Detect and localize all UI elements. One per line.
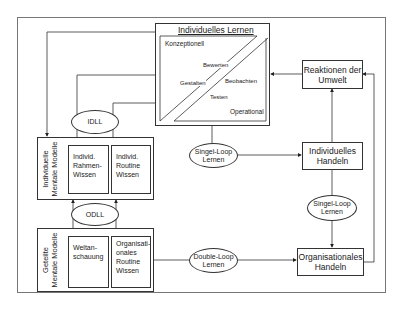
cycle-step-evaluate: Bewerten (203, 62, 228, 68)
single-loop-learning-right-ellipse: Singel-Loop Lernen (307, 195, 357, 221)
organizational-routine-knowledge: Organisati- onales Routine Wissen (111, 236, 151, 288)
cycle-step-design: Gestalten (180, 80, 206, 86)
conceptual-label: Konzeptionell (165, 40, 204, 47)
organizational-action-box: Organisationales Handeln (297, 248, 364, 276)
double-loop-learning-ellipse: Double-Loop Lernen (189, 248, 238, 273)
odll-ellipse: ODLL (71, 203, 119, 226)
individual-action-box: Individuelles Handeln (302, 142, 363, 170)
individual-learning-title: Individuelles Lernen (178, 25, 254, 35)
individual-routine-knowledge: Individ. Routine Wissen (111, 145, 151, 194)
operational-label: Operational (230, 108, 264, 115)
individual-frame-knowledge: Individ. Rahmen- Wissen (68, 145, 109, 194)
cycle-step-test: Testen (210, 94, 228, 100)
shared-mental-models-label: Geteilte Mentale Modelle (41, 229, 59, 291)
idll-ellipse: IDLL (71, 110, 119, 134)
environment-reactions-box: Reaktionen der Umwelt (302, 60, 363, 89)
single-loop-learning-ellipse: Singel-Loop Lernen (189, 143, 238, 168)
cycle-step-observe: Beobachten (225, 78, 257, 84)
individual-mental-models-label: Individuelle Mentale Modelle (41, 138, 59, 200)
worldview-box: Weltan- schauung (68, 236, 109, 288)
